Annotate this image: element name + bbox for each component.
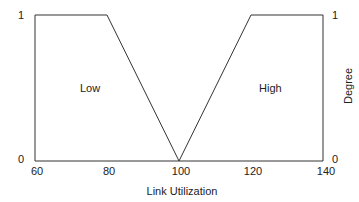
low-region-label: Low — [80, 82, 100, 94]
high-membership-line — [179, 15, 323, 161]
x-tick-80: 80 — [103, 165, 115, 177]
high-region-label: High — [259, 82, 282, 94]
y-axis-label: Degree — [342, 68, 354, 104]
x-tick-60: 60 — [31, 165, 43, 177]
y-tick-right-0: 0 — [332, 153, 338, 165]
x-axis-label: Link Utilization — [147, 185, 218, 197]
x-tick-140: 140 — [317, 165, 335, 177]
x-tick-120: 120 — [244, 165, 262, 177]
x-tick-100: 100 — [172, 165, 190, 177]
y-tick-left-0: 0 — [18, 153, 24, 165]
y-tick-left-1: 1 — [18, 9, 24, 21]
low-membership-line — [35, 15, 179, 161]
y-tick-right-1: 1 — [332, 9, 338, 21]
